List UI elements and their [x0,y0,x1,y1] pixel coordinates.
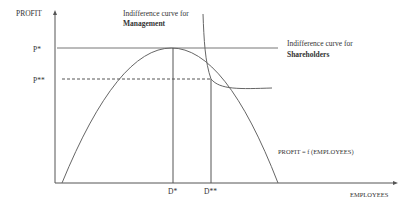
profit-function-curve [62,48,278,183]
x-axis-arrow-icon [393,181,398,185]
function-label: PROFIT = f (EMPLOYEES) [278,149,354,156]
y-axis-label: PROFIT [16,10,42,18]
management-curve-label-line1: Indifference curve for [123,10,189,18]
shareholders-curve-label-line2: Shareholders [287,51,329,59]
diagram-canvas [0,0,413,209]
shareholders-curve-label-line1: Indifference curve for [287,40,353,48]
y-axis-arrow-icon [53,10,57,15]
management-curve-label-line2: Management [123,20,165,28]
d-double-star-label: D** [204,188,217,196]
management-indifference-curve [203,14,272,89]
x-axis-label: EMPLOYEES [350,192,388,199]
p-double-star-label: P** [33,77,45,85]
p-star-label: P* [33,46,41,54]
d-star-label: D* [168,188,177,196]
